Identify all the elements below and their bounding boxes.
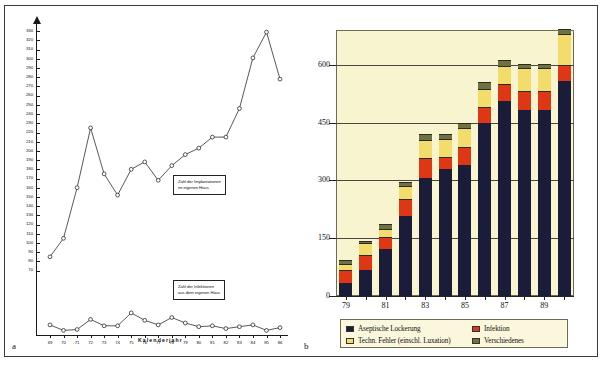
panel-b-y-tick [329,123,336,124]
panel-a-y-tick-label: 250 [15,103,33,107]
bar-segment [399,199,412,216]
panel-a-data-point [197,146,201,150]
bar-segment [478,123,491,296]
bar-segment [379,237,392,249]
panel-a-data-point [89,318,93,322]
panel-a-data-point [129,167,133,171]
panel-a-data-point [211,135,215,139]
panel-a-data-point [278,326,282,330]
panel-b-x-tick-label: 85 [455,301,475,310]
panel-a-data-point [278,77,282,81]
bar-79[interactable] [339,260,352,296]
bar-segment [498,66,511,84]
panel-b-stacked-bar-chart: 0150300450600 798183858789 Aseptische Lo… [300,8,596,356]
bar-83[interactable] [419,134,432,296]
panel-a-y-tick-label: 310 [15,47,33,51]
panel-a-data-point [211,324,215,328]
bar-82[interactable] [399,182,412,297]
bar-segment [538,68,551,91]
panel-b-x-tick [405,296,406,300]
panel-a-data-point [116,324,120,328]
panel-b-y-tick-label: 150 [304,234,330,242]
bar-segment [538,110,551,296]
bar-segment [339,283,352,296]
panel-a-data-point [265,329,269,333]
panel-a-y-tick-label: 290 [15,66,33,70]
bar-81[interactable] [379,224,392,296]
panel-b-y-tick [329,65,336,66]
panel-a-data-point [48,323,52,327]
bar-segment [399,186,412,199]
bar-segment [359,270,372,296]
panel-a-y-tick-label: 140 [15,204,33,208]
bar-84[interactable] [439,134,452,296]
bar-87[interactable] [498,60,511,296]
panel-a-data-point [116,193,120,197]
legend-row-2: Techn. Fehler (einschl. Luxation) Versch… [346,335,562,347]
bar-segment [478,107,491,123]
panel-a-data-point [197,325,201,329]
panel-a-y-tick-label: 110 [15,232,33,236]
bar-86[interactable] [478,82,491,296]
panel-a-data-point [75,328,79,332]
panel-a-data-point [156,178,160,182]
panel-a-series-line-1 [50,313,280,331]
panel-b-x-tick-label: 83 [415,301,435,310]
panel-a-y-tick-label: 200 [15,149,33,153]
panel-a-data-point [48,255,52,259]
bar-segment [439,139,452,157]
panel-a-data-point [224,135,228,139]
panel-b-x-tick [544,296,545,300]
legend-item-infektion: Infektion [472,325,509,333]
bar-80[interactable] [359,241,372,297]
bar-segment [478,82,491,89]
panel-b-x-tick [524,296,525,300]
legend-item-techn-fehler: Techn. Fehler (einschl. Luxation) [346,337,472,345]
bar-segment [399,216,412,296]
bar-segment [538,91,551,110]
panel-b-x-tick [425,296,426,300]
legend-label-infektion: Infektion [484,325,509,333]
panel-a-y-tick-label: 220 [15,130,33,134]
panel-a-data-point [62,236,66,240]
panel-a-data-point [183,321,187,325]
bar-segment [379,229,392,238]
bar-85[interactable] [458,123,471,297]
panel-a-y-tick-label: 90 [15,250,33,254]
panel-a-y-tick-label: 150 [15,195,33,199]
panel-b-x-tick [445,296,446,300]
panel-a-y-tick-label: 300 [15,57,33,61]
panel-a-data-point [238,107,242,111]
legend-item-aseptische-lockerung: Aseptische Lockerung [346,325,472,333]
panel-b-y-tick-label: 300 [304,176,330,184]
bar-90[interactable] [558,29,571,296]
panel-a-data-point [224,327,228,331]
bar-segment [478,89,491,107]
bar-89[interactable] [538,64,551,297]
bar-segment [458,128,471,147]
panel-a-data-point [143,160,147,164]
panel-b-x-tick-label: 87 [495,301,515,310]
panel-a-y-tick-label: 230 [15,121,33,125]
panel-a-data-point [238,325,242,329]
bar-segment [379,249,392,296]
bar-segment [419,178,432,296]
legend-label-techn-fehler: Techn. Fehler (einschl. Luxation) [358,337,451,345]
legend-swatch-icon-techn-fehler [346,338,354,344]
panel-a-y-tick-label: 280 [15,75,33,79]
panel-b-y-tick-label: 600 [304,61,330,69]
bar-segment [558,81,571,296]
panel-a-data-point [102,172,106,176]
panel-a-y-tick-label: 130 [15,213,33,217]
infections-note: Zahl der Infektionen aus dem eigenen Hau… [173,280,225,300]
bar-segment [498,101,511,296]
panel-a-y-tick-label: 120 [15,222,33,226]
bar-segment [359,243,372,255]
panel-a-data-point [89,126,93,130]
bar-segment [419,158,432,178]
bar-88[interactable] [518,64,531,297]
bar-segment [419,140,432,158]
panel-a-series-line-0 [50,32,280,257]
panel-b-y-tick-label: 450 [304,119,330,127]
panel-a-data-point [251,56,255,60]
